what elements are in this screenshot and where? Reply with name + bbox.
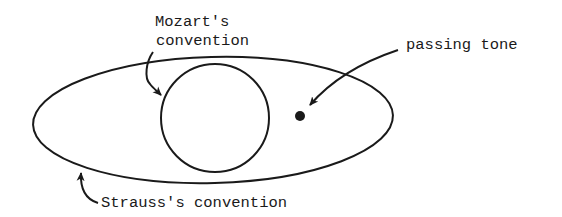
mozart-label-line1: Mozart's — [155, 13, 229, 31]
passing-tone-dot — [295, 111, 305, 121]
strauss-arrow — [81, 173, 98, 203]
convention-diagram: Mozart's convention passing tone Strauss… — [0, 0, 562, 217]
passing-tone-label: passing tone — [406, 36, 518, 54]
strauss-convention-ellipse — [31, 52, 394, 187]
mozart-label-line2: convention — [156, 32, 249, 50]
mozart-convention-circle — [161, 64, 269, 172]
mozart-arrow — [146, 52, 161, 95]
strauss-label: Strauss's convention — [101, 194, 287, 212]
